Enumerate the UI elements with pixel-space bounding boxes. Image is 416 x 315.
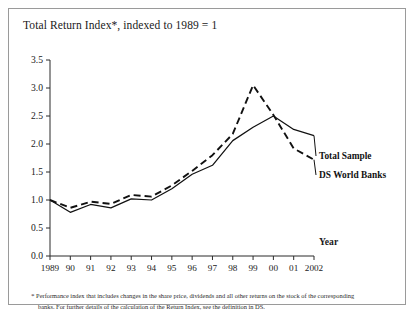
x-tick-label: 97 bbox=[208, 263, 218, 273]
x-tick-label: 95 bbox=[167, 263, 177, 273]
legend-leader-line-total-sample bbox=[314, 136, 316, 156]
y-tick-label: 2.5 bbox=[31, 110, 43, 121]
x-tick-label: 92 bbox=[106, 263, 116, 273]
x-axis-label: Year bbox=[319, 236, 339, 247]
x-axis-tick-labels: 19899091929394959697989900012002 bbox=[41, 263, 324, 273]
y-tick-label: 0.0 bbox=[31, 250, 43, 261]
y-tick-label: 3.0 bbox=[31, 82, 43, 93]
line-chart-svg: 0.00.51.01.52.02.53.03.5 198990919293949… bbox=[9, 9, 407, 306]
y-tick-label: 1.5 bbox=[31, 166, 43, 177]
x-tick-label: 99 bbox=[248, 263, 258, 273]
y-axis-ticks bbox=[46, 60, 50, 256]
x-tick-label: 91 bbox=[86, 263, 96, 273]
y-tick-label: 0.5 bbox=[31, 222, 43, 233]
x-tick-label: 98 bbox=[228, 263, 238, 273]
x-tick-label: 94 bbox=[147, 263, 157, 273]
x-tick-label: 2002 bbox=[305, 263, 324, 273]
x-tick-label: 90 bbox=[66, 263, 76, 273]
y-tick-label: 2.0 bbox=[31, 138, 43, 149]
footnote-line-2: banks. For further details of the calcul… bbox=[31, 302, 397, 312]
y-tick-label: 3.5 bbox=[31, 54, 43, 65]
x-tick-label: 93 bbox=[127, 263, 137, 273]
chart-footnote: * Performance index that includes change… bbox=[31, 291, 397, 313]
figure-frame: Total Return Index*, indexed to 1989 = 1… bbox=[8, 8, 406, 305]
x-tick-label: 96 bbox=[188, 263, 198, 273]
series-line-total-sample bbox=[50, 116, 314, 212]
x-tick-label: 00 bbox=[269, 263, 279, 273]
series-line-ds-world-banks bbox=[50, 85, 314, 208]
x-tick-label: 1989 bbox=[41, 263, 60, 273]
chart-plot-area: 0.00.51.01.52.02.53.03.5 198990919293949… bbox=[9, 9, 407, 306]
legend-leader-line-ds-world-banks bbox=[314, 160, 316, 175]
y-axis-tick-labels: 0.00.51.01.52.02.53.03.5 bbox=[31, 54, 43, 261]
x-tick-label: 01 bbox=[289, 263, 299, 273]
legend-label-ds-world-banks: DS World Banks bbox=[319, 170, 386, 180]
y-tick-label: 1.0 bbox=[31, 194, 43, 205]
footnote-line-1: Performance index that includes changes … bbox=[36, 292, 354, 299]
legend-label-total-sample: Total Sample bbox=[319, 151, 372, 161]
x-axis-ticks bbox=[50, 256, 314, 260]
footnote-marker: * bbox=[31, 292, 35, 300]
